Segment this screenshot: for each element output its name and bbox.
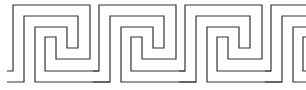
meander-line (179, 16, 282, 82)
meander-line (265, 5, 306, 71)
meander-motifs (7, 5, 306, 82)
meander-line (93, 5, 185, 71)
meander-line (179, 5, 271, 71)
meander-line (7, 5, 99, 71)
meander-line (93, 16, 196, 82)
meander-line (7, 16, 110, 82)
greek-key-border (0, 0, 306, 90)
